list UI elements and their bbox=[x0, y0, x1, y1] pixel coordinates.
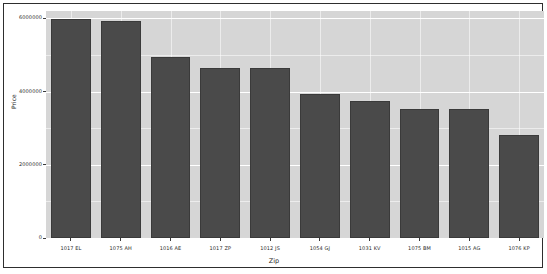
x-tick-mark bbox=[469, 238, 470, 241]
x-tick-label: 1031 KV bbox=[359, 244, 381, 252]
bar[interactable] bbox=[400, 109, 440, 238]
x-tick-mark bbox=[270, 238, 271, 241]
y-tick-mark bbox=[43, 91, 46, 92]
bar[interactable] bbox=[449, 109, 489, 238]
x-tick-label: 1017 EL bbox=[60, 244, 81, 252]
bar[interactable] bbox=[51, 19, 91, 238]
bar[interactable] bbox=[499, 135, 539, 238]
figure-border: 0200000040000006000000 Price 1017 EL1075… bbox=[3, 3, 543, 268]
plot-area bbox=[46, 11, 544, 238]
x-tick-label: 1054 GJ bbox=[310, 244, 330, 252]
y-tick-mark bbox=[43, 18, 46, 19]
x-tick-label: 1017 ZP bbox=[210, 244, 231, 252]
bar[interactable] bbox=[350, 101, 390, 238]
y-tick-mark bbox=[43, 164, 46, 165]
x-tick-mark bbox=[120, 238, 121, 241]
x-tick-label: 1012 JS bbox=[260, 244, 280, 252]
x-axis-title: Zip bbox=[4, 257, 544, 265]
x-tick-mark bbox=[220, 238, 221, 241]
x-tick-mark bbox=[369, 238, 370, 241]
x-tick-mark bbox=[319, 238, 320, 241]
x-tick-label: 1075 AH bbox=[110, 244, 132, 252]
bar[interactable] bbox=[151, 57, 191, 238]
y-axis: 0200000040000006000000 bbox=[4, 4, 46, 245]
x-tick-label: 1075 BM bbox=[408, 244, 431, 252]
x-tick-mark bbox=[170, 238, 171, 241]
bar[interactable] bbox=[300, 94, 340, 238]
x-tick-label: 1016 AE bbox=[160, 244, 182, 252]
chart-figure: 0200000040000006000000 Price 1017 EL1075… bbox=[0, 0, 547, 274]
bar[interactable] bbox=[101, 21, 141, 238]
y-tick-label: 6000000 bbox=[19, 13, 42, 22]
y-tick-label: 4000000 bbox=[19, 87, 42, 96]
x-tick-label: 1015 AG bbox=[458, 244, 480, 252]
x-axis: 1017 EL1075 AH1016 AE1017 ZP1012 JS1054 … bbox=[46, 238, 544, 258]
y-tick-label: 2000000 bbox=[19, 160, 42, 169]
x-tick-label: 1076 KP bbox=[508, 244, 529, 252]
bar[interactable] bbox=[200, 68, 240, 238]
x-tick-mark bbox=[70, 238, 71, 241]
x-tick-mark bbox=[419, 238, 420, 241]
y-axis-title: Price bbox=[10, 94, 17, 109]
bar[interactable] bbox=[250, 68, 290, 238]
y-tick-label: 0 bbox=[39, 233, 42, 242]
x-tick-mark bbox=[519, 238, 520, 241]
